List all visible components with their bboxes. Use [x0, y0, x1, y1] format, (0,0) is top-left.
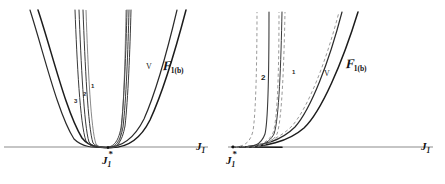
curve-inner-aux-a [86, 10, 108, 148]
curve-label-f1b: F1(b) [163, 59, 185, 72]
x-axis-label-sub: 1 [202, 146, 206, 155]
curve-1 [238, 12, 282, 147]
panel-left: 3 2 1 V F1(b) J1 J*1 [0, 0, 222, 184]
minimum-label-star: * [109, 150, 114, 159]
panel-right: 2 1 V F1(b) J1 J*1 [222, 0, 445, 184]
curve-v-dashed [236, 12, 339, 147]
minimum-label-wrap: J*1 [102, 155, 108, 166]
f-subscript: 1(b) [354, 64, 367, 73]
x-axis-label-main: J [421, 140, 427, 152]
curve-f1b [38, 10, 186, 148]
figure-root: 3 2 1 V F1(b) J1 J*1 [0, 0, 445, 184]
curve-label-1: 1 [292, 69, 295, 75]
minimum-label-star: * [233, 150, 238, 159]
x-axis-label: J1 [421, 141, 430, 152]
curve-label-f1b: F1(b) [346, 57, 368, 70]
curve-label-3: 3 [74, 98, 77, 104]
curve-2-dashed [234, 12, 257, 147]
minimum-label: J*1 [102, 155, 108, 166]
x-axis-label: J1 [196, 141, 205, 152]
curve-1 [83, 10, 131, 148]
minimum-label: J*1 [226, 155, 232, 166]
curve-label-v: V [146, 63, 152, 71]
minimum-label-sub: 1 [232, 161, 236, 169]
minimum-label-sub: 1 [108, 161, 112, 169]
curve-label-2: 2 [261, 74, 265, 82]
curve-1-dashed [236, 12, 279, 147]
curve-3 [75, 10, 127, 148]
minimum-marker [232, 146, 235, 149]
panel-right-plot [222, 0, 445, 184]
curve-label-2: 2 [83, 91, 86, 97]
curve-label-1: 1 [91, 83, 94, 89]
x-axis-label-main: J [196, 140, 202, 152]
x-axis-label-sub: 1 [427, 146, 431, 155]
curve-v [30, 10, 177, 148]
curve-label-v: V [324, 70, 330, 78]
curve-f1b [236, 12, 358, 147]
f-subscript: 1(b) [171, 66, 184, 75]
minimum-label-wrap: J*1 [226, 155, 232, 166]
